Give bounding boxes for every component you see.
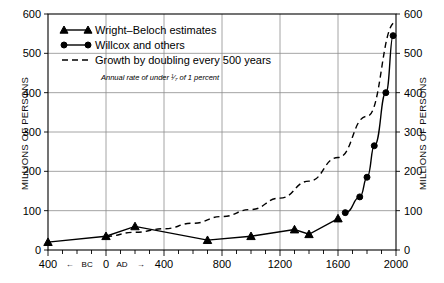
data-point-circle xyxy=(383,90,389,96)
era-label: BC xyxy=(82,260,93,269)
y-axis-tick-labels-right: 0100200300400500600 xyxy=(404,8,422,256)
y-axis-tick-labels-left: 0100200300400500600 xyxy=(23,8,41,256)
data-point-triangle xyxy=(131,222,139,230)
x-tick-label: 400 xyxy=(155,258,173,270)
y-tick-label-right: 200 xyxy=(404,165,422,177)
data-point-circle xyxy=(364,174,370,180)
legend-item-1: Wright–Beloch estimates xyxy=(60,24,217,36)
plot-area: 0100200300400500600 0100200300400500600 … xyxy=(0,0,444,283)
legend-item-2: Willcox and others xyxy=(61,39,185,51)
x-tick-label: 0 xyxy=(103,258,109,270)
data-point-triangle xyxy=(334,214,342,222)
x-tick-label: 800 xyxy=(213,258,231,270)
data-point-circle xyxy=(85,42,91,48)
y-tick-label-right: 600 xyxy=(404,8,422,20)
series-willcox-and-others xyxy=(342,33,396,216)
data-point-triangle xyxy=(290,225,298,233)
legend-label: Growth by doubling every 500 years xyxy=(95,54,272,66)
data-point-circle xyxy=(371,143,377,149)
y-tick-label-right: 100 xyxy=(404,205,422,217)
data-point-circle xyxy=(342,210,348,216)
y-tick-label-left: 400 xyxy=(23,87,41,99)
series-wright-beloch-estimates xyxy=(44,214,342,245)
legend-item-3: Growth by doubling every 500 years xyxy=(62,54,272,66)
era-label: ← xyxy=(66,260,74,269)
era-label: AD xyxy=(116,260,127,269)
legend-label: Wright–Beloch estimates xyxy=(95,24,217,36)
data-point-circle xyxy=(357,194,363,200)
x-tick-label: 400 xyxy=(39,258,57,270)
y-tick-label-left: 100 xyxy=(23,205,41,217)
y-tick-label-right: 500 xyxy=(404,47,422,59)
y-tick-label-left: 300 xyxy=(23,126,41,138)
x-axis-tick-labels: 4000400800120016002000 xyxy=(39,258,408,270)
y-tick-label-left: 0 xyxy=(35,244,41,256)
series-line xyxy=(345,36,393,213)
y-tick-label-right: 0 xyxy=(404,244,410,256)
x-tick-label: 2000 xyxy=(384,258,408,270)
y-tick-label-right: 400 xyxy=(404,87,422,99)
x-tick-label: 1200 xyxy=(268,258,292,270)
data-point-circle xyxy=(61,42,67,48)
era-label: → xyxy=(137,260,145,269)
data-point-circle xyxy=(390,33,396,39)
y-tick-label-left: 200 xyxy=(23,165,41,177)
legend-note: Annual rate of under ¹⁄₇ of 1 percent xyxy=(100,73,220,82)
y-tick-label-left: 500 xyxy=(23,47,41,59)
y-tick-label-right: 300 xyxy=(404,126,422,138)
x-tick-label: 1600 xyxy=(326,258,350,270)
y-tick-label-left: 600 xyxy=(23,8,41,20)
population-chart-figure: MILLIONS OF PERSONS MILLIONS OF PERSONS … xyxy=(0,0,444,283)
legend-label: Willcox and others xyxy=(95,39,185,51)
